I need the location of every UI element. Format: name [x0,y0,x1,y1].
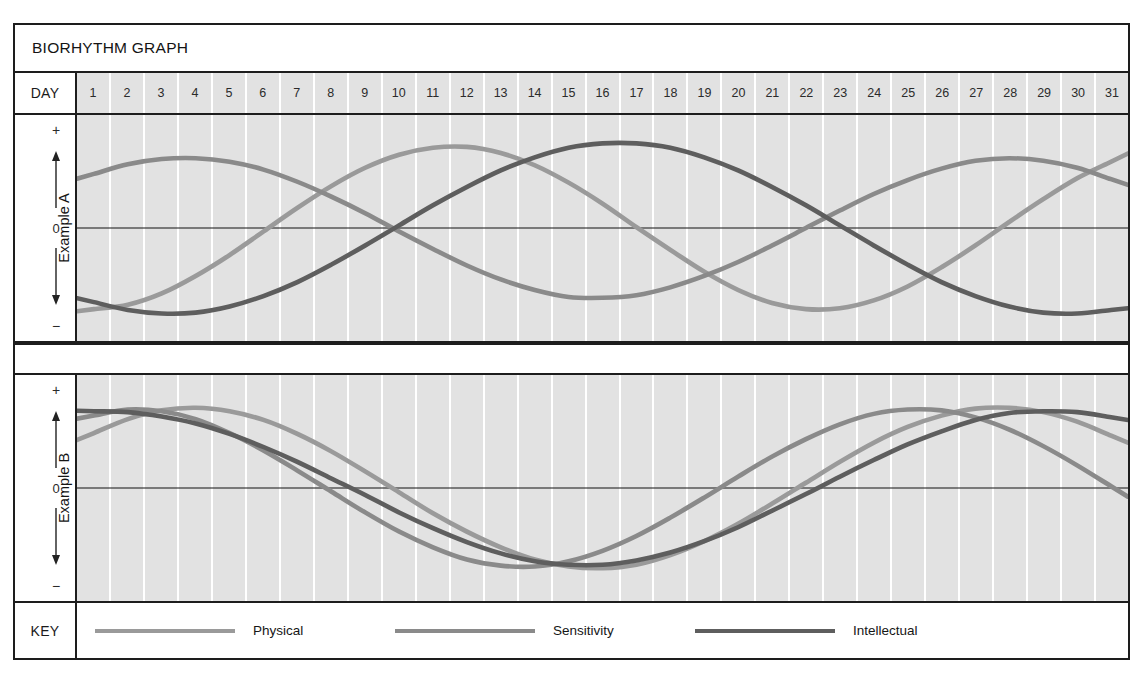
axis-zero-label: 0 [52,481,59,496]
day-cell: 4 [179,73,213,113]
key-entry: Sensitivity [395,623,614,638]
key-entry-label: Physical [253,623,303,638]
day-cell: 26 [926,73,960,113]
day-cell: 19 [688,73,722,113]
day-cell: 28 [994,73,1028,113]
day-cell: 20 [722,73,756,113]
day-cell: 17 [621,73,655,113]
day-cell: 5 [213,73,247,113]
key-label-cell: KEY [15,603,77,658]
panel-b-curves [77,375,1128,601]
panel-b-label-cell: Example B + 0 − [15,375,77,603]
day-cell: 22 [790,73,824,113]
panel-a-label-cell: Example A + 0 − [15,115,77,343]
arrow-up-icon [50,137,62,221]
key-line-swatch [695,629,835,633]
arrow-up-icon [50,397,62,481]
day-cell: 10 [383,73,417,113]
curve-physical [77,146,1128,311]
day-header-row: DAY 123456789101112131415161718192021222… [15,73,1128,115]
day-cell: 13 [485,73,519,113]
axis-minus-label: − [52,579,60,593]
panel-b-axis: + 0 − [43,375,69,601]
key-row: KEY PhysicalSensitivityIntellectual [15,603,1128,658]
day-cell: 27 [960,73,994,113]
day-cell: 25 [892,73,926,113]
day-cell: 1 [77,73,111,113]
day-cell: 11 [417,73,451,113]
day-cell: 31 [1096,73,1128,113]
day-cell: 7 [281,73,315,113]
panel-a-axis: + 0 − [43,115,69,341]
day-cell: 14 [519,73,553,113]
title-row: BIORHYTHM GRAPH [15,25,1128,73]
key-label: KEY [31,623,60,639]
arrow-down-icon [50,496,62,580]
axis-plus-label: + [52,383,60,397]
axis-plus-label: + [52,123,60,137]
day-header-label: DAY [31,85,60,101]
day-cell: 29 [1028,73,1062,113]
day-header-cells: 1234567891011121314151617181920212223242… [77,73,1128,113]
day-cell: 8 [315,73,349,113]
key-line-swatch [395,629,535,633]
panel-example-a: Example A + 0 − [15,115,1128,343]
key-entry-label: Sensitivity [553,623,614,638]
key-entry: Physical [95,623,303,638]
day-cell: 12 [451,73,485,113]
day-cell-list: 1234567891011121314151617181920212223242… [77,73,1128,113]
panel-a-plot-area [77,115,1128,343]
day-cell: 23 [824,73,858,113]
axis-minus-label: − [52,319,60,333]
arrow-down-icon [50,236,62,320]
day-cell: 16 [587,73,621,113]
axis-zero-label: 0 [52,221,59,236]
key-entry-label: Intellectual [853,623,918,638]
day-header-label-cell: DAY [15,73,77,113]
day-cell: 15 [553,73,587,113]
panel-b-plot-area [77,375,1128,603]
day-cell: 9 [349,73,383,113]
panel-a-curves [77,115,1128,341]
panel-example-b: Example B + 0 − [15,375,1128,603]
day-cell: 2 [111,73,145,113]
day-cell: 3 [145,73,179,113]
key-entry: Intellectual [695,623,918,638]
panel-separator [15,343,1128,375]
day-cell: 24 [858,73,892,113]
page-title: BIORHYTHM GRAPH [15,39,188,57]
day-cell: 21 [756,73,790,113]
key-line-swatch [95,629,235,633]
day-cell: 30 [1062,73,1096,113]
biorhythm-chart-frame: BIORHYTHM GRAPH DAY 12345678910111213141… [13,23,1130,660]
day-cell: 18 [654,73,688,113]
day-cell: 6 [247,73,281,113]
key-entries: PhysicalSensitivityIntellectual [77,603,1128,658]
